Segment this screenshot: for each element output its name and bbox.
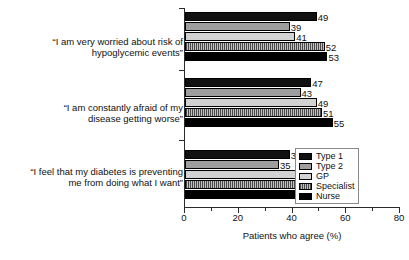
y-axis-tick-2 xyxy=(179,140,185,141)
x-axis-tick-10 xyxy=(211,208,212,211)
bar-group1-nurse xyxy=(185,52,327,61)
y-axis-tick-top xyxy=(179,8,185,9)
bar-group1-specialist xyxy=(185,42,325,51)
value-label-group2-type2: 43 xyxy=(302,89,313,98)
legend-item-type2: Type 2 xyxy=(299,161,355,171)
category-label-3: “I feel that my diabetes is preventing m… xyxy=(7,166,183,188)
x-tick-label-0: 0 xyxy=(169,212,199,223)
value-label-group1-gp: 41 xyxy=(296,33,307,42)
x-tick-label-40: 40 xyxy=(277,212,307,223)
legend-swatch-type2-icon xyxy=(299,163,312,170)
value-label-group2-specialist: 51 xyxy=(323,109,334,118)
legend-swatch-gp-icon xyxy=(299,173,312,180)
legend-label-gp: GP xyxy=(316,172,329,181)
value-label-group2-nurse: 55 xyxy=(334,119,345,128)
value-label-group2-gp: 49 xyxy=(318,99,329,108)
x-tick-label-80: 80 xyxy=(384,212,409,223)
category-label-2: “I am constantly afraid of my disease ge… xyxy=(7,102,183,124)
x-axis-tick-50 xyxy=(318,208,319,211)
legend: Type 1 Type 2 GP Specialist Nurse xyxy=(295,148,359,204)
legend-swatch-type1-icon xyxy=(299,153,312,160)
bar-group3-type1 xyxy=(185,150,290,159)
legend-swatch-specialist-icon xyxy=(299,183,312,190)
bar-group2-specialist xyxy=(185,108,322,117)
x-axis-tick-70 xyxy=(372,208,373,211)
value-label-group1-nurse: 53 xyxy=(328,53,339,62)
value-label-group1-type1: 49 xyxy=(318,13,329,22)
legend-label-type2: Type 2 xyxy=(316,162,343,171)
bar-group2-type1 xyxy=(185,78,311,87)
legend-item-gp: GP xyxy=(299,171,355,181)
bar-group2-nurse xyxy=(185,118,333,127)
value-label-group2-type1: 47 xyxy=(312,79,323,88)
legend-item-type1: Type 1 xyxy=(299,151,355,161)
x-tick-label-20: 20 xyxy=(223,212,253,223)
bar-group1-type1 xyxy=(185,12,317,21)
bar-group3-gp xyxy=(185,170,301,179)
value-label-group1-type2: 39 xyxy=(291,23,302,32)
legend-swatch-nurse-icon xyxy=(299,193,312,200)
y-axis-tick-1 xyxy=(179,70,185,71)
bar-group1-type2 xyxy=(185,22,290,31)
value-label-group3-type2: 35 xyxy=(280,161,291,170)
y-axis xyxy=(184,8,185,207)
x-axis-title: Patients who agree (%) xyxy=(184,230,400,241)
legend-item-nurse: Nurse xyxy=(299,191,355,201)
legend-item-specialist: Specialist xyxy=(299,181,355,191)
bar-group3-nurse xyxy=(185,190,311,199)
x-axis-tick-30 xyxy=(265,208,266,211)
legend-label-specialist: Specialist xyxy=(316,182,355,191)
legend-label-nurse: Nurse xyxy=(316,192,340,201)
legend-label-type1: Type 1 xyxy=(316,152,343,161)
bar-group2-gp xyxy=(185,98,317,107)
value-label-group1-specialist: 52 xyxy=(326,43,337,52)
bar-group1-gp xyxy=(185,32,295,41)
bar-group2-type2 xyxy=(185,88,301,97)
category-label-1: “I am very worried about risk of hypogly… xyxy=(7,36,183,58)
bar-group3-type2 xyxy=(185,160,279,169)
x-tick-label-60: 60 xyxy=(330,212,360,223)
